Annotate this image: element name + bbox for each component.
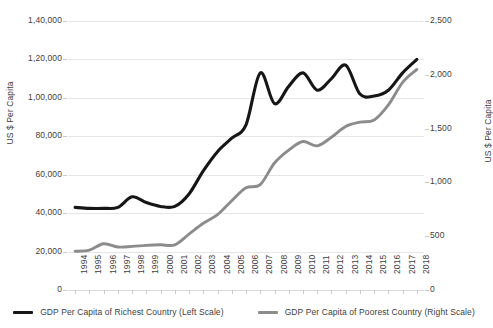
y-tick-left	[63, 98, 67, 99]
y-axis-left-tick-label: 60,000	[35, 169, 62, 179]
legend-swatch-poorest	[258, 311, 278, 314]
y-tick-right	[425, 182, 429, 183]
x-tick	[218, 290, 219, 294]
x-axis-tick-label: 2014	[364, 255, 374, 274]
x-tick	[203, 290, 204, 294]
x-axis-tick-label: 2006	[250, 255, 260, 274]
legend-item-poorest[interactable]: GDP Per Capita of Poorest Country (Right…	[258, 307, 475, 317]
x-tick	[104, 290, 105, 294]
y-tick-right	[425, 75, 429, 76]
y-tick-left	[63, 213, 67, 214]
x-tick	[403, 290, 404, 294]
x-axis-tick-label: 2011	[321, 255, 331, 274]
cropped-title-remnant	[0, 0, 488, 5]
x-axis-tick-label: 1997	[122, 255, 132, 274]
y-tick-left	[63, 290, 67, 291]
y-axis-left-tick-label: 0	[57, 284, 62, 294]
y-axis-left-tick-label: 40,000	[35, 207, 62, 217]
plot-area	[68, 21, 424, 290]
y-tick-left	[63, 21, 67, 22]
y-axis-left-tick-label: 80,000	[35, 130, 62, 140]
legend-item-richest[interactable]: GDP Per Capita of Richest Country (Left …	[13, 307, 224, 317]
x-axis-tick-label: 2003	[207, 255, 217, 274]
x-axis-tick-label: 1996	[108, 255, 118, 274]
y-axis-right-tick-label: 1,500	[430, 123, 452, 133]
x-tick	[275, 290, 276, 294]
y-axis-right-title: US $ Per Capita	[483, 100, 493, 163]
x-tick	[232, 290, 233, 294]
x-axis-tick-label: 2018	[421, 255, 431, 274]
x-tick	[289, 290, 290, 294]
y-tick-right	[425, 21, 429, 22]
line-richest-country	[75, 59, 417, 208]
y-axis-left-tick-label: 1,00,000	[28, 92, 62, 102]
x-tick	[374, 290, 375, 294]
x-axis-tick-label: 2010	[307, 255, 317, 274]
y-axis-right-tick-label: 0	[430, 284, 435, 294]
x-axis-tick-label: 1994	[79, 255, 89, 274]
y-tick-left	[63, 175, 67, 176]
x-axis-tick-label: 2005	[236, 255, 246, 274]
y-tick-left	[63, 59, 67, 60]
y-axis-left-title: US $ Per Capita	[5, 82, 15, 145]
chart-legend: GDP Per Capita of Richest Country (Left …	[0, 307, 488, 317]
x-axis-tick-label: 2001	[179, 255, 189, 274]
x-axis-tick-label: 2008	[279, 255, 289, 274]
x-axis-tick-label: 1999	[150, 255, 160, 274]
legend-swatch-richest	[13, 311, 33, 314]
y-tick-right	[425, 290, 429, 291]
x-tick	[260, 290, 261, 294]
x-axis-tick-label: 2013	[350, 255, 360, 274]
x-axis-tick-label: 2000	[165, 255, 175, 274]
x-axis-tick-label: 2017	[407, 255, 417, 274]
y-axis-right-tick-label: 500	[430, 230, 444, 240]
legend-label-richest: GDP Per Capita of Richest Country (Left …	[40, 307, 224, 317]
x-tick	[189, 290, 190, 294]
x-axis-tick-label: 1995	[93, 255, 103, 274]
x-axis-tick-label: 2004	[222, 255, 232, 274]
x-axis-tick-label: 2012	[335, 255, 345, 274]
x-tick	[118, 290, 119, 294]
y-axis-right-tick-label: 2,000	[430, 69, 452, 79]
y-axis-left-tick-label: 20,000	[35, 246, 62, 256]
x-tick	[175, 290, 176, 294]
x-axis-tick-label: 1998	[136, 255, 146, 274]
x-tick	[388, 290, 389, 294]
y-tick-left	[63, 252, 67, 253]
x-axis-tick-label: 2007	[264, 255, 274, 274]
x-tick	[317, 290, 318, 294]
y-tick-right	[425, 236, 429, 237]
y-axis-right-tick-label: 1,000	[430, 176, 452, 186]
x-tick	[417, 290, 418, 294]
x-tick	[360, 290, 361, 294]
x-axis-tick-label: 2015	[378, 255, 388, 274]
x-tick	[132, 290, 133, 294]
x-axis-tick-label: 2016	[392, 255, 402, 274]
series-lines	[68, 21, 424, 290]
y-axis-left-tick-label: 1,20,000	[28, 53, 62, 63]
x-tick	[246, 290, 247, 294]
y-tick-left	[63, 136, 67, 137]
x-tick	[303, 290, 304, 294]
y-axis-left-tick-label: 1,40,000	[28, 15, 62, 25]
x-axis-tick-label: 2002	[193, 255, 203, 274]
x-tick	[146, 290, 147, 294]
legend-label-poorest: GDP Per Capita of Poorest Country (Right…	[285, 307, 475, 317]
x-tick	[89, 290, 90, 294]
y-axis-right-tick-label: 2,500	[430, 15, 452, 25]
x-tick	[161, 290, 162, 294]
x-axis-tick-label: 2009	[293, 255, 303, 274]
y-tick-right	[425, 129, 429, 130]
x-tick	[75, 290, 76, 294]
x-tick	[346, 290, 347, 294]
x-tick	[331, 290, 332, 294]
